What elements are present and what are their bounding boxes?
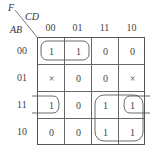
cell-00-11: 0 — [92, 38, 119, 65]
cell-01-01: 0 — [65, 65, 92, 92]
cell-10-01: 0 — [65, 119, 92, 146]
cell-10-10: 1 — [119, 119, 146, 146]
cell-00-01: 1 — [65, 38, 92, 65]
row-header-10: 10 — [17, 118, 35, 145]
col-header-01: 01 — [64, 22, 91, 33]
cell-01-00: × — [38, 65, 65, 92]
row-header-11: 11 — [17, 91, 35, 118]
col-header-00: 00 — [37, 22, 64, 33]
cell-10-11: 1 — [92, 119, 119, 146]
cell-11-01: 0 — [65, 92, 92, 119]
cell-00-00: 1 — [38, 38, 65, 65]
col-header-10: 10 — [118, 22, 145, 33]
row-header-00: 00 — [17, 37, 35, 64]
cell-11-00: 1 — [38, 92, 65, 119]
karnaugh-map-grid: 1 1 0 0 × 0 0 × 1 0 1 1 0 0 1 1 — [37, 37, 145, 145]
cell-11-10: 1 — [119, 92, 146, 119]
cell-01-11: 0 — [92, 65, 119, 92]
cell-10-00: 0 — [38, 119, 65, 146]
cell-01-10: × — [119, 65, 146, 92]
cell-00-10: 0 — [119, 38, 146, 65]
row-header-01: 01 — [17, 64, 35, 91]
cell-11-11: 1 — [92, 92, 119, 119]
col-header-11: 11 — [91, 22, 118, 33]
